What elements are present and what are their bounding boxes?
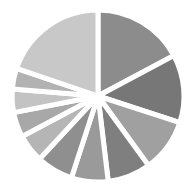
pie-chart [0, 0, 195, 191]
